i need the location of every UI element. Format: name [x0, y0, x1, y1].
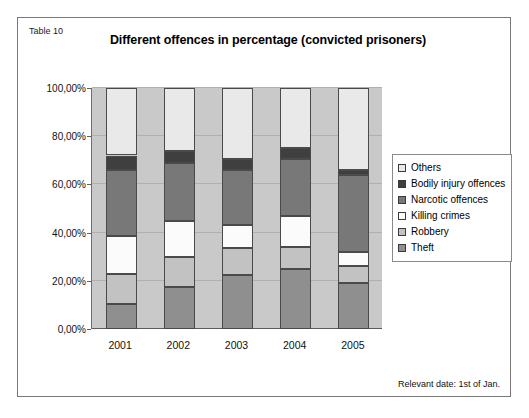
bar-segment[interactable]	[106, 236, 137, 273]
x-axis-tick-label-2004: 2004	[265, 339, 325, 351]
y-axis-tick-label: 0,00%	[30, 324, 86, 335]
bar-segment[interactable]	[222, 225, 253, 248]
y-axis-tick-label: 80,00%	[30, 131, 86, 142]
bar-segment[interactable]	[106, 156, 137, 170]
bar-segment[interactable]	[222, 248, 253, 275]
legend-swatch-icon	[398, 196, 406, 204]
bar-2005[interactable]	[338, 88, 369, 329]
plot-area	[91, 88, 382, 329]
legend-item[interactable]: Others	[398, 160, 505, 176]
y-axis-tick-label: 60,00%	[30, 179, 86, 190]
chart-legend: OthersBodily injury offencesNarcotic off…	[392, 154, 512, 262]
bar-segment[interactable]	[164, 287, 195, 329]
bar-segment[interactable]	[222, 88, 253, 159]
bar-segment[interactable]	[106, 88, 137, 155]
chart-figure: Table 10 Different offences in percentag…	[17, 17, 511, 397]
bar-segment[interactable]	[164, 257, 195, 287]
y-axis-tick-label: 20,00%	[30, 275, 86, 286]
legend-item[interactable]: Killing crimes	[398, 208, 505, 224]
bar-segment[interactable]	[338, 266, 369, 283]
legend-swatch-icon	[398, 180, 406, 188]
chart-title: Different offences in percentage (convic…	[58, 33, 478, 47]
bar-segment[interactable]	[164, 221, 195, 257]
legend-swatch-icon	[398, 164, 406, 172]
legend-label: Robbery	[411, 226, 449, 238]
bar-segment[interactable]	[280, 216, 311, 247]
bar-segment[interactable]	[338, 88, 369, 170]
bar-segment[interactable]	[280, 159, 311, 216]
bar-segment[interactable]	[280, 148, 311, 159]
y-axis-tick-labels: 0,00%20,00%40,00%60,00%80,00%100,00%	[26, 88, 86, 329]
legend-swatch-icon	[398, 212, 406, 220]
bar-2001[interactable]	[106, 88, 137, 329]
legend-item[interactable]: Narcotic offences	[398, 192, 505, 208]
bar-segment[interactable]	[222, 170, 253, 225]
bar-segment[interactable]	[222, 275, 253, 329]
bar-2003[interactable]	[222, 88, 253, 329]
legend-item[interactable]: Robbery	[398, 224, 505, 240]
legend-swatch-icon	[398, 228, 406, 236]
y-axis-tick-label: 100,00%	[30, 83, 86, 94]
bar-segment[interactable]	[338, 283, 369, 329]
legend-label: Narcotic offences	[411, 194, 488, 206]
bar-segment[interactable]	[280, 88, 311, 148]
footnote: Relevant date: 1st of Jan.	[398, 379, 500, 389]
legend-label: Others	[411, 162, 441, 174]
bar-segment[interactable]	[106, 274, 137, 304]
legend-item[interactable]: Bodily injury offences	[398, 176, 505, 192]
bar-segment[interactable]	[106, 170, 137, 236]
bar-segment[interactable]	[338, 252, 369, 266]
x-axis-tick-label-2003: 2003	[207, 339, 267, 351]
legend-label: Killing crimes	[411, 210, 470, 222]
y-axis-tick-label: 40,00%	[30, 227, 86, 238]
bar-segment[interactable]	[280, 269, 311, 329]
bar-segment[interactable]	[280, 247, 311, 269]
bar-segment[interactable]	[164, 163, 195, 221]
bar-2002[interactable]	[164, 88, 195, 329]
legend-swatch-icon	[398, 244, 406, 252]
bar-segment[interactable]	[164, 151, 195, 163]
x-axis-tick-label-2002: 2002	[148, 339, 208, 351]
x-axis-tick-labels: 20012002200320042005	[91, 333, 382, 351]
legend-label: Theft	[411, 242, 434, 254]
bar-2004[interactable]	[280, 88, 311, 329]
legend-label: Bodily injury offences	[411, 178, 505, 190]
x-axis-tick-label-2001: 2001	[90, 339, 150, 351]
bar-segment[interactable]	[338, 170, 369, 175]
bar-segment[interactable]	[338, 175, 369, 252]
y-axis-tick-mark	[87, 329, 91, 330]
x-axis-tick-label-2005: 2005	[323, 339, 383, 351]
bar-segment[interactable]	[106, 304, 137, 329]
bar-segment[interactable]	[164, 88, 195, 151]
bar-segment[interactable]	[222, 159, 253, 170]
legend-item[interactable]: Theft	[398, 240, 505, 256]
